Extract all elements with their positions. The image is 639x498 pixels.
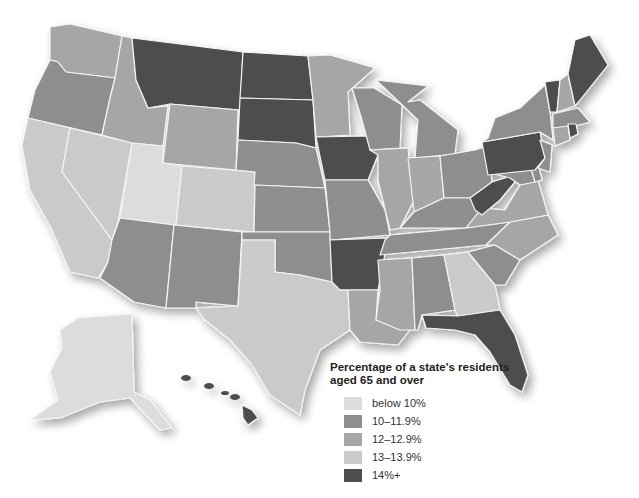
legend-label: 10–11.9%	[372, 415, 421, 427]
state-MT	[132, 38, 243, 110]
legend-item-13-13: 13–13.9%	[344, 448, 570, 466]
legend-item-10-11: 10–11.9%	[344, 412, 570, 430]
legend-title-line2: aged 65 and over	[330, 374, 570, 387]
legend-title-line1: Percentage of a state's residents	[330, 361, 570, 374]
map-legend: Percentage of a state's residents aged 6…	[330, 361, 570, 484]
legend-swatch	[344, 451, 362, 464]
state-HI	[181, 375, 258, 425]
state-KS	[254, 185, 330, 232]
state-ND	[240, 52, 313, 100]
legend-label: below 10%	[372, 397, 426, 409]
state-NY	[482, 85, 553, 142]
legend-swatch	[344, 397, 362, 410]
state-CO	[176, 166, 255, 232]
legend-label: 14%+	[372, 469, 400, 481]
legend-item-below-10: below 10%	[344, 394, 570, 412]
state-AK	[30, 314, 172, 430]
state-MS	[376, 258, 415, 330]
legend-label: 12–12.9%	[372, 433, 422, 445]
state-WY	[163, 104, 238, 170]
legend-label: 13–13.9%	[372, 451, 422, 463]
legend-item-12-12: 12–12.9%	[344, 430, 570, 448]
legend-swatch	[344, 415, 362, 428]
legend-swatch	[344, 469, 362, 482]
legend-item-14-plus: 14%+	[344, 466, 570, 484]
state-ME	[568, 35, 608, 106]
state-CT	[553, 126, 570, 146]
state-RI	[568, 124, 578, 138]
legend-title: Percentage of a state's residents aged 6…	[330, 361, 570, 387]
state-NM	[166, 225, 242, 308]
legend-swatch	[344, 433, 362, 446]
